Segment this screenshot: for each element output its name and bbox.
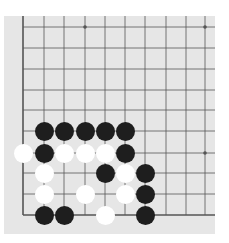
black-stone (35, 122, 54, 141)
star-point (203, 25, 207, 29)
white-stone (96, 206, 115, 225)
black-stone (96, 122, 115, 141)
black-stone (35, 144, 54, 163)
white-stone (76, 144, 95, 163)
black-stone (35, 206, 54, 225)
black-stone (136, 185, 155, 204)
white-stone (55, 144, 74, 163)
star-point (83, 25, 87, 29)
black-stone (76, 122, 95, 141)
black-stone (116, 144, 135, 163)
black-stone (96, 164, 115, 183)
go-board[interactable] (4, 16, 215, 234)
black-stone (116, 122, 135, 141)
black-stone (55, 122, 74, 141)
white-stone (35, 185, 54, 204)
white-stone (96, 144, 115, 163)
white-stone (116, 185, 135, 204)
star-point (203, 151, 207, 155)
black-stone (55, 206, 74, 225)
white-stone (35, 164, 54, 183)
white-stone (76, 185, 95, 204)
black-stone (136, 164, 155, 183)
white-stone (116, 164, 135, 183)
black-stone (136, 206, 155, 225)
white-stone (14, 144, 33, 163)
